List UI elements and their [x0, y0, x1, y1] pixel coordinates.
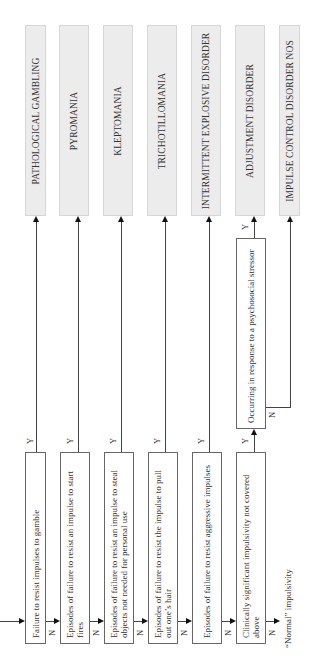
- arrow-right-icon: [274, 618, 280, 624]
- yes-connector: [78, 222, 79, 452]
- yes-connector: [254, 222, 255, 238]
- yes-connector: [254, 434, 255, 452]
- diagnosis-label: PYROMANIA: [69, 91, 79, 149]
- arrow-up-icon: [251, 429, 257, 435]
- yes-label: Y: [108, 436, 118, 446]
- arrow-up-icon: [206, 216, 212, 222]
- diagnosis-label: KLEPTOMANIA: [113, 86, 123, 156]
- yes-connector: [165, 222, 166, 452]
- arrow-right-icon: [186, 618, 192, 624]
- arrow-right-icon: [230, 618, 236, 624]
- yes-label: Y: [196, 436, 206, 446]
- diagnosis-intermittent-explosive-disorder: INTERMITTENT EXPLOSIVE DISORDER: [191, 25, 221, 216]
- no-label: N: [47, 628, 57, 638]
- yes-label: Y: [65, 436, 75, 446]
- yes-connector: [36, 222, 37, 452]
- arrow-up-icon: [33, 216, 39, 222]
- arrow-up-icon: [75, 216, 81, 222]
- yes-label: Y: [240, 436, 250, 446]
- decision-text: Episodes of failure to resist an impulse…: [65, 458, 85, 638]
- decision-text: Occurring in response to a psychosocial …: [246, 245, 256, 423]
- arrow-right-icon: [142, 618, 148, 624]
- diagnosis-label: IMPULSE CONTROL DISORDER NOS: [285, 40, 295, 202]
- no-label: N: [179, 628, 189, 638]
- diagnosis-pyromania: PYROMANIA: [59, 25, 89, 216]
- no-label: N: [267, 628, 277, 638]
- decision-text: Clinically significant impulsivity not c…: [241, 458, 261, 638]
- yes-label: Y: [152, 436, 162, 446]
- decision-text: Failure to resist impulses to gamble: [31, 458, 41, 638]
- arrow-right-icon: [98, 618, 104, 624]
- no-connector: [290, 222, 291, 408]
- no-connector: [265, 407, 291, 408]
- yes-connector: [121, 222, 122, 452]
- diagnosis-label: INTERMITTENT EXPLOSIVE DISORDER: [201, 32, 211, 209]
- decision-clinically-significant: Clinically significant impulsivity not c…: [236, 452, 266, 644]
- yes-label: Y: [240, 222, 250, 232]
- diagnosis-kleptomania: KLEPTOMANIA: [103, 25, 133, 216]
- no-label: N: [91, 628, 101, 638]
- diagnosis-label: PATHOLOGICAL GAMBLING: [31, 57, 41, 184]
- yes-label: Y: [25, 436, 35, 446]
- arrow-right-icon: [54, 618, 60, 624]
- decision-fires: Episodes of failure to resist an impulse…: [60, 452, 90, 644]
- diagnosis-label: TRICHOTILLOMANIA: [157, 72, 167, 169]
- arrow-up-icon: [287, 216, 293, 222]
- arrow-up-icon: [118, 216, 124, 222]
- decision-gamble: Failure to resist impulses to gamble: [25, 452, 46, 644]
- yes-connector: [209, 222, 210, 452]
- entry-connector: [0, 621, 20, 622]
- arrow-up-icon: [251, 216, 257, 222]
- decision-steal: Episodes of failure to resist an impulse…: [104, 452, 134, 644]
- normal-impulsivity-note: “Normal” impulsivity: [283, 569, 293, 648]
- diagnosis-adjustment-disorder: ADJUSTMENT DISORDER: [235, 25, 265, 216]
- decision-text: Episodes of failure to resist aggressive…: [202, 458, 212, 638]
- decision-psychosocial-stressor: Occurring in response to a psychosocial …: [236, 238, 266, 429]
- diagnosis-label: ADJUSTMENT DISORDER: [245, 64, 255, 178]
- decision-text: Episodes of failure to resist an impulse…: [109, 458, 129, 638]
- decision-text: Episodes of failure to resist the impuls…: [153, 458, 173, 638]
- no-label: N: [135, 628, 145, 638]
- no-label: N: [267, 410, 277, 420]
- diagnosis-pathological-gambling: PATHOLOGICAL GAMBLING: [25, 25, 46, 216]
- decision-hair: Episodes of failure to resist the impuls…: [148, 452, 178, 644]
- diagnosis-impulse-control-disorder-nos: IMPULSE CONTROL DISORDER NOS: [279, 25, 300, 216]
- arrow-right-icon: [19, 618, 25, 624]
- no-label: N: [223, 628, 233, 638]
- arrow-up-icon: [162, 216, 168, 222]
- diagnosis-trichotillomania: TRICHOTILLOMANIA: [147, 25, 177, 216]
- decision-aggressive: Episodes of failure to resist aggressive…: [192, 452, 222, 644]
